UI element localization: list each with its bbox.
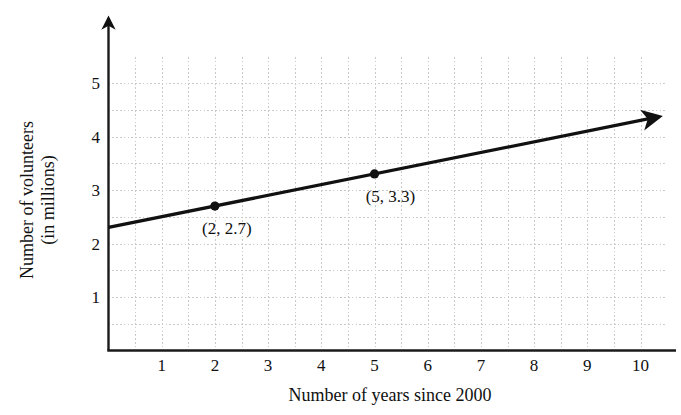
- y-axis-title-line-2: (in millions): [38, 121, 59, 279]
- x-tick-label: 6: [423, 357, 432, 374]
- y-tick-label: 1: [92, 289, 101, 306]
- data-point-marker: [370, 169, 379, 178]
- y-tick-label: 5: [92, 75, 101, 92]
- y-tick-label: 2: [92, 235, 101, 252]
- chart-background: [0, 0, 681, 415]
- point-label: (5, 3.3): [366, 188, 416, 205]
- x-tick-label: 10: [632, 357, 649, 374]
- y-tick-label: 4: [92, 128, 101, 145]
- plot-area: [0, 0, 681, 415]
- x-tick-label: 4: [317, 357, 326, 374]
- y-axis-title-line-1: Number of volunteers: [17, 121, 38, 279]
- x-tick-label: 8: [530, 357, 539, 374]
- y-tick-label: 3: [92, 182, 101, 199]
- x-tick-label: 9: [583, 357, 592, 374]
- y-axis-title: Number of volunteers (in millions): [17, 121, 58, 279]
- x-axis-title: Number of years since 2000: [289, 385, 492, 406]
- x-tick-label: 3: [264, 357, 273, 374]
- x-tick-label: 2: [211, 357, 220, 374]
- data-point-marker: [210, 201, 219, 210]
- x-tick-label: 1: [157, 357, 166, 374]
- point-label: (2, 2.7): [202, 220, 252, 237]
- x-tick-label: 7: [477, 357, 486, 374]
- x-tick-label: 5: [370, 357, 379, 374]
- line-chart: 12345678910 12345 (2, 2.7)(5, 3.3) Numbe…: [0, 0, 681, 415]
